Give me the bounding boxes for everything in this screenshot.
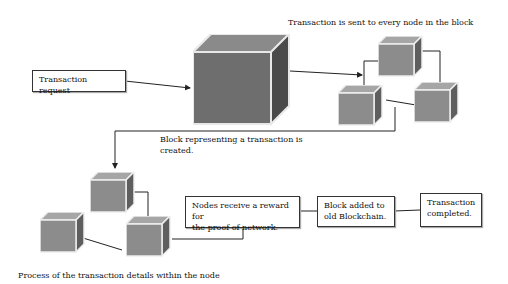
node-cube-icon — [414, 82, 460, 124]
broadcast-label: Transaction is sent to every node in the… — [288, 17, 473, 28]
node-cube-icon — [90, 172, 136, 214]
reward-box: Nodes receive a reward for the proof of … — [185, 196, 300, 228]
transaction-request-box: Transaction request — [32, 70, 126, 92]
node-cube-icon — [378, 36, 424, 78]
completed-box: Transaction completed. — [420, 193, 482, 227]
block-cube-icon — [193, 34, 293, 126]
blockchain-box: Block added to old Blockchain. — [317, 196, 395, 227]
blockchain-diagram: Transaction is sent to every node in the… — [0, 0, 508, 284]
node-cube-icon — [40, 212, 86, 254]
block-created-label: Block representing a transaction is crea… — [160, 134, 303, 156]
process-caption: Process of the transaction details withi… — [18, 270, 220, 281]
node-cube-icon — [338, 85, 384, 127]
node-cube-icon — [126, 216, 172, 258]
